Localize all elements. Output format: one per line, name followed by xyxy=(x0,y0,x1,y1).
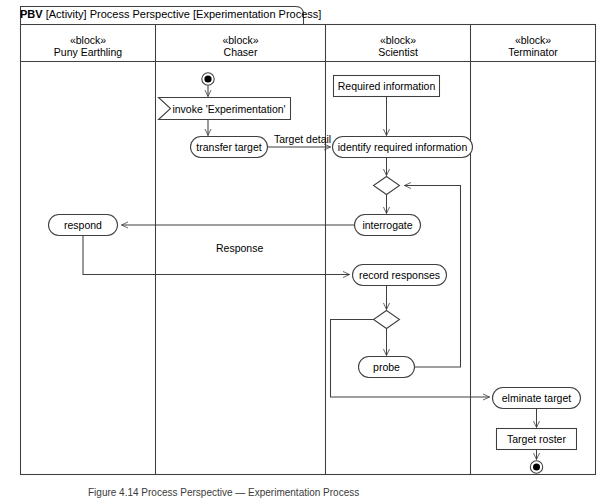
lane-stereotype: «block» xyxy=(156,34,325,46)
lane-stereotype: «block» xyxy=(21,34,155,46)
edge-label-response: Response xyxy=(216,243,263,254)
diagram-frame-title: PBV [Activity] Process Perspective [Expe… xyxy=(20,9,321,20)
object-node-target-roster-label: Target roster xyxy=(496,434,577,445)
action-interrogate-label: interrogate xyxy=(354,220,421,231)
lane-header-puny-earthling: «block» Puny Earthling xyxy=(21,34,155,58)
lane-name: Scientist xyxy=(326,46,470,58)
edge-label-target-detail: Target detail xyxy=(274,134,331,145)
lane-name: Chaser xyxy=(156,46,325,58)
action-record-responses-label: record responses xyxy=(352,270,447,281)
accept-signal-invoke-label: invoke 'Experimentation' xyxy=(170,104,288,115)
lane-name: Puny Earthling xyxy=(21,46,155,58)
action-transfer-target-label: transfer target xyxy=(190,142,268,153)
action-probe-label: probe xyxy=(358,362,415,373)
frame-title-prefix: PBV xyxy=(20,8,43,20)
lane-name: Terminator xyxy=(471,46,595,58)
initial-node-inner xyxy=(204,75,211,82)
lane-header-terminator: «block» Terminator xyxy=(471,34,595,58)
action-respond-label: respond xyxy=(48,220,118,231)
figure-caption: Figure 4.14 Process Perspective — Experi… xyxy=(88,487,359,498)
lane-header-scientist: «block» Scientist xyxy=(326,34,470,58)
object-node-required-information-label: Required information xyxy=(333,81,440,92)
action-elminate-target-label: elminate target xyxy=(492,393,581,404)
lane-stereotype: «block» xyxy=(326,34,470,46)
final-node-core xyxy=(533,464,540,471)
lane-header-chaser: «block» Chaser xyxy=(156,34,325,58)
frame-title-rest: [Activity] Process Perspective [Experime… xyxy=(43,8,322,20)
action-identify-required-information-label: identify required information xyxy=(332,142,473,153)
lane-stereotype: «block» xyxy=(471,34,595,46)
